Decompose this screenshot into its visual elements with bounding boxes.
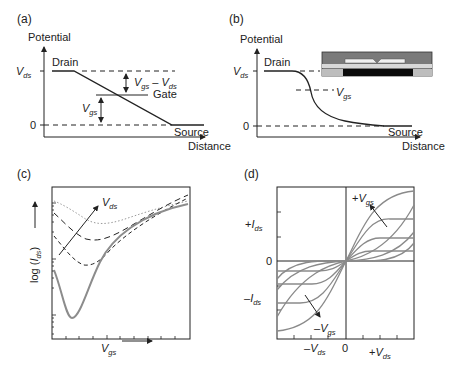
panel-c-ylabel: log (Ids) <box>28 247 43 283</box>
panel-b: (b) Potential Vds 0 Drain Vgs Source Dis… <box>229 12 445 152</box>
device-cross-section-inset <box>322 52 432 76</box>
panel-c-vds-label: Vds <box>102 196 118 211</box>
panel-b-vgs: Vgs <box>336 86 352 101</box>
panel-d-xtick-0: 0 <box>342 342 348 354</box>
panel-d-ytick-0: 0 <box>266 255 272 267</box>
panel-a: (a) Potential Vds 0 Drain Gate Source Di… <box>16 12 231 152</box>
panel-a-source-label: Source <box>174 126 209 138</box>
panel-d-ytick-pos-ids: +Ids <box>245 218 263 233</box>
panel-b-ytick-vds: Vds <box>233 65 249 80</box>
panel-d-label: (d) <box>244 167 259 181</box>
panel-c: (c) Vds log (Ids) Vgs <box>17 167 190 357</box>
panel-d-ytick-neg-ids: –Ids <box>244 292 261 307</box>
panel-a-potential-line <box>52 71 204 125</box>
panel-b-label: (b) <box>229 12 244 26</box>
panel-c-gray-curve <box>54 204 188 318</box>
panel-d-neg-vgs-arrow <box>305 295 320 317</box>
panel-b-ytick-0: 0 <box>243 120 249 132</box>
panel-d-xtick-pos-vds: +Vds <box>369 346 391 361</box>
panel-d: (d) +Vgs –Vgs +Ids <box>244 167 414 361</box>
panel-b-ylabel: Potential <box>240 33 283 45</box>
figure-canvas: (a) Potential Vds 0 Drain Gate Source Di… <box>0 0 453 368</box>
panel-d-pos-vgs-arrow <box>370 205 387 227</box>
panel-d-neg-vgs-label: –Vgs <box>314 322 336 337</box>
gate-electrode <box>343 69 413 76</box>
panel-c-label: (c) <box>17 167 31 181</box>
panel-a-ylabel: Potential <box>28 31 71 43</box>
panel-a-xlabel: Distance <box>188 140 231 152</box>
panel-a-drain-label: Drain <box>52 56 78 68</box>
panel-a-vgs: Vgs <box>82 102 98 117</box>
panel-d-pos-vgs-label: +Vgs <box>352 192 374 207</box>
panel-a-ytick-0: 0 <box>30 119 36 131</box>
panel-c-dashed-curve-2 <box>54 198 188 265</box>
panel-c-xlabel: Vgs <box>101 342 117 357</box>
panel-c-vds-arrow <box>59 206 98 255</box>
panel-b-source-label: Source <box>388 126 423 138</box>
panel-d-xtick-neg-vds: –Vds <box>304 342 326 357</box>
panel-c-dashed-curve-1 <box>54 195 188 240</box>
panel-b-drain-label: Drain <box>264 56 290 68</box>
panel-b-xlabel: Distance <box>402 140 445 152</box>
panel-b-potential-curve <box>264 71 412 126</box>
panel-a-label: (a) <box>17 12 32 26</box>
panel-a-ytick-vds: Vds <box>16 65 32 80</box>
